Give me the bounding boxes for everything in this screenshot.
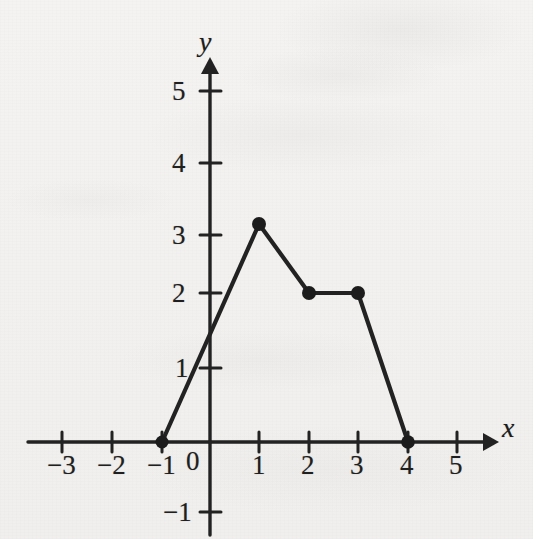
x-tick-label: 5	[449, 452, 463, 479]
data-point	[252, 217, 266, 231]
function-curve	[162, 224, 408, 442]
y-tick-label: 3	[172, 222, 186, 249]
x-tick-label: 1	[252, 452, 266, 479]
x-axis-name: x	[502, 414, 514, 442]
data-point	[401, 435, 415, 449]
x-tick-label: 4	[400, 452, 414, 479]
y-axis	[200, 57, 221, 535]
x-tick-label: 3	[350, 452, 364, 479]
y-tick-label: 1	[175, 355, 189, 382]
x-axis	[28, 432, 499, 452]
data-point	[156, 436, 169, 449]
y-tick-label: 5	[172, 78, 186, 105]
data-point-markers	[156, 217, 415, 449]
origin-label: 0	[186, 448, 200, 475]
x-tick-label: −1	[147, 452, 176, 479]
x-tick-label: 2	[301, 452, 315, 479]
y-tick-label: 2	[172, 280, 186, 307]
graph-figure: −3 −2 −1 0 1 2 3 4 5 5 4 3 2 1 −1 y x	[0, 0, 533, 539]
data-point	[302, 286, 316, 300]
y-tick-label: −1	[163, 499, 192, 526]
data-point	[351, 286, 365, 300]
x-tick-label: −2	[97, 452, 126, 479]
x-tick-label: −3	[47, 452, 76, 479]
y-tick-label: 4	[172, 150, 186, 177]
y-axis-name: y	[199, 28, 211, 56]
